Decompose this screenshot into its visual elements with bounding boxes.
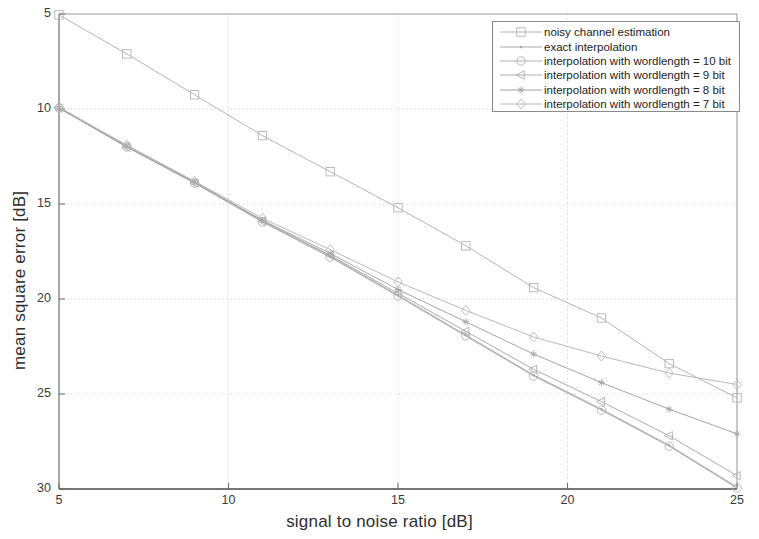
legend-item-1: exact interpolation <box>493 39 739 53</box>
legend-item-label: exact interpolation <box>544 40 637 54</box>
diamond-marker <box>498 97 544 111</box>
x-tick-label-5: 5 <box>39 493 79 507</box>
x-tick-label-20: 20 <box>548 493 588 507</box>
y-tick-label-10: 10 <box>17 101 51 115</box>
y-axis-title: mean square error [dB] <box>10 191 30 370</box>
legend-item-5: interpolation with wordlength = 7 bit <box>493 97 739 111</box>
square-marker <box>498 25 544 39</box>
legend-item-label: interpolation with wordlength = 9 bit <box>544 68 725 82</box>
chart-figure: 51015202551015202530 signal to noise rat… <box>0 0 759 539</box>
legend-item-label: noisy channel estimation <box>544 25 670 39</box>
legend-item-0: noisy channel estimation <box>493 25 739 39</box>
legend-item-label: interpolation with wordlength = 10 bit <box>544 54 731 68</box>
x-tick-label-10: 10 <box>209 493 249 507</box>
legend-item-2: interpolation with wordlength = 10 bit <box>493 54 739 68</box>
legend-item-4: interpolation with wordlength = 8 bit <box>493 83 739 97</box>
chart-legend: noisy channel estimationexact interpolat… <box>492 21 740 112</box>
dot-marker <box>498 40 544 54</box>
y-tick-label-5: 5 <box>17 6 51 20</box>
y-tick-label-25: 25 <box>17 386 51 400</box>
asterisk-marker <box>498 83 544 97</box>
x-tick-label-25: 25 <box>717 493 757 507</box>
left-triangle-marker <box>498 68 544 82</box>
legend-item-label: interpolation with wordlength = 8 bit <box>544 83 725 97</box>
x-tick-label-15: 15 <box>378 493 418 507</box>
legend-item-label: interpolation with wordlength = 7 bit <box>544 97 725 111</box>
circle-marker <box>498 54 544 68</box>
y-tick-label-30: 30 <box>17 481 51 495</box>
x-axis-title: signal to noise ratio [dB] <box>0 512 759 532</box>
legend-item-3: interpolation with wordlength = 9 bit <box>493 68 739 82</box>
